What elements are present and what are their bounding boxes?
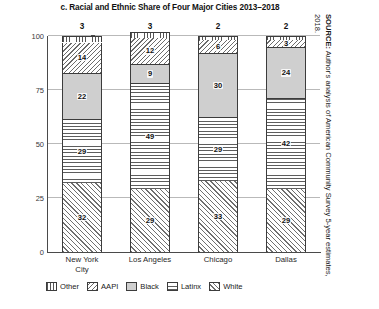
y-tick-label: 25 [4, 194, 44, 203]
bar-total-label: 3 [62, 22, 102, 31]
bar-value-label: 29 [281, 217, 291, 225]
bar-segment[interactable]: 12 [130, 38, 170, 64]
bar-value-label: 14 [77, 54, 87, 62]
y-tick-label: 100 [4, 32, 44, 41]
bar-segment[interactable]: 3 [266, 40, 306, 46]
bar-stack: 2942243 [266, 36, 306, 252]
bar-value-label: 29 [145, 217, 155, 225]
bar-value-label: 49 [145, 133, 155, 141]
bar-value-label: 29 [77, 148, 87, 156]
legend-item[interactable]: AAPI [87, 282, 118, 291]
bar-segment[interactable]: 49 [130, 84, 170, 190]
bar-value-label: 29 [213, 146, 223, 154]
legend-swatch-black [126, 282, 137, 291]
bar-group[interactable]: 32949912 [130, 36, 170, 252]
bar-segment[interactable] [62, 36, 102, 42]
legend-item[interactable]: Latinx [167, 282, 201, 291]
legend-swatch-white [209, 282, 220, 291]
source-note: SOURCE: Author's analysis of American Co… [312, 14, 333, 296]
x-axis-line [47, 252, 321, 253]
bar-segment[interactable]: 6 [198, 40, 238, 53]
bar-segment[interactable]: 29 [62, 120, 102, 183]
source-prefix: SOURCE: [324, 14, 333, 49]
bar-group[interactable]: 23329306 [198, 36, 238, 252]
bar-segment[interactable]: 42 [266, 99, 306, 190]
bar-value-label: 6 [215, 43, 221, 51]
chart-legend: OtherAAPIBlackLatinxWhite [46, 282, 326, 291]
bar-stack: 32292214 [62, 36, 102, 252]
legend-label: Other [60, 282, 79, 291]
legend-item[interactable]: Other [46, 282, 79, 291]
bar-group[interactable]: 332292214 [62, 36, 102, 252]
bar-segment[interactable] [266, 36, 306, 40]
bar-total-label: 3 [130, 22, 170, 31]
legend-label: AAPI [101, 282, 118, 291]
source-text: Author's analysis of American Community … [314, 14, 334, 277]
y-tick-label: 0 [4, 248, 44, 257]
y-tick-label: 50 [4, 140, 44, 149]
legend-label: Latinx [181, 282, 201, 291]
bar-segment[interactable]: 14 [62, 43, 102, 73]
bar-segment[interactable] [198, 36, 238, 40]
bar-total-label: 2 [198, 22, 238, 31]
bar-value-label: 42 [281, 140, 291, 148]
bar-total-label: 2 [266, 22, 306, 31]
legend-swatch-aapi [87, 282, 98, 291]
bar-value-label: 24 [281, 69, 291, 77]
bar-segment[interactable]: 29 [130, 189, 170, 252]
legend-item[interactable]: White [209, 282, 242, 291]
bar-segment[interactable]: 29 [198, 118, 238, 181]
bar-segment[interactable] [130, 32, 170, 38]
bar-value-label: 22 [77, 93, 87, 101]
bar-value-label: 12 [145, 47, 155, 55]
bar-stack: 3329306 [198, 36, 238, 252]
bar-value-label: 3 [283, 40, 289, 48]
bar-stack: 2949912 [130, 36, 170, 252]
chart-figure: c. Racial and Ethnic Share of Four Major… [0, 0, 379, 309]
chart-title: c. Racial and Ethnic Share of Four Major… [0, 3, 340, 12]
legend-label: White [223, 282, 242, 291]
plot-area: 0255075100 33229221432949912233293062294… [48, 36, 320, 252]
y-tick-label: 75 [4, 86, 44, 95]
bar-value-label: 9 [147, 70, 153, 78]
legend-label: Black [140, 282, 159, 291]
bar-segment[interactable]: 30 [198, 53, 238, 118]
bar-group[interactable]: 22942243 [266, 36, 306, 252]
x-axis-category-line: City [39, 265, 125, 275]
bar-segment[interactable]: 22 [62, 73, 102, 121]
bar-segment[interactable]: 29 [266, 189, 306, 252]
bar-segment[interactable]: 32 [62, 183, 102, 252]
bar-value-label: 32 [77, 214, 87, 222]
bar-value-label: 33 [213, 213, 223, 221]
bar-segment[interactable]: 9 [130, 64, 170, 83]
bar-segment[interactable]: 24 [266, 47, 306, 99]
legend-swatch-other [46, 282, 57, 291]
bar-value-label: 30 [213, 82, 223, 90]
bar-segment[interactable]: 33 [198, 181, 238, 252]
legend-item[interactable]: Black [126, 282, 159, 291]
legend-swatch-latinx [167, 282, 178, 291]
